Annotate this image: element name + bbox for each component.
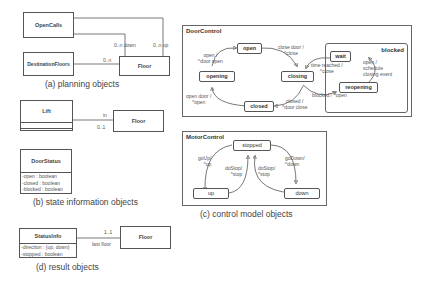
class-title: DoorStatus xyxy=(21,150,71,173)
state-down[interactable]: down xyxy=(284,188,320,199)
caption-control: (c) control model objects xyxy=(200,209,293,219)
state-stopped[interactable]: stopped xyxy=(233,140,271,151)
state-closed[interactable]: closed xyxy=(244,101,274,112)
transition-stopped-down: goDown/ ^down xyxy=(285,155,305,167)
frame-title: MotorControl xyxy=(186,134,224,140)
class-destination-floors[interactable]: DestinationFloors xyxy=(23,52,74,76)
multiplicity-dest: 0..n xyxy=(103,57,111,63)
class-floor-planning[interactable]: Floor xyxy=(119,56,170,76)
multiplicity-last-floor: 1..1 xyxy=(104,229,112,235)
class-open-calls[interactable]: OpenCalls xyxy=(23,12,74,38)
caption-state-info: (b) state information objects xyxy=(33,197,138,207)
transition-closing-reopening: blocked / ^open xyxy=(312,92,347,98)
transition-action: ^stop xyxy=(225,171,242,177)
state-up[interactable]: up xyxy=(193,188,229,199)
class-title: OpenCalls xyxy=(24,13,73,37)
role-in: in xyxy=(103,112,107,118)
class-title: Floor xyxy=(121,227,170,248)
transition-action: ^stop xyxy=(258,171,275,177)
transition-up-stopped: doStop/ ^stop xyxy=(225,165,242,177)
transition-action: ^close xyxy=(278,50,304,56)
class-lift[interactable]: Lift xyxy=(20,100,73,131)
multiplicity-down: 0..n down xyxy=(114,42,136,48)
transition-action: closing event xyxy=(363,71,392,77)
class-floor-result[interactable]: Floor xyxy=(120,226,171,249)
transition-reopening-wait: open / schedule closing event xyxy=(363,59,392,77)
attribute-blocked: -blocked : boolean xyxy=(21,186,71,193)
multiplicity-in: 0..1 xyxy=(97,124,105,130)
transition-action: ^open xyxy=(186,99,211,105)
caption-result: (d) result objects xyxy=(36,262,99,272)
state-open[interactable]: open xyxy=(237,43,262,54)
class-title: Floor xyxy=(120,57,169,75)
class-status-info[interactable]: StatusInfo -direction : {up, down} -stop… xyxy=(19,228,77,258)
transition-closing-closed: closed / ^door close xyxy=(282,98,307,110)
transition-down-stopped: doStop/ ^stop xyxy=(258,165,275,177)
attribute-direction: -direction : {up, down} xyxy=(20,244,76,251)
state-opening[interactable]: opening xyxy=(199,71,235,82)
frame-title: DoorControl xyxy=(186,28,221,34)
attribute-stopped: -stopped : boolean xyxy=(20,251,76,258)
transition-action: ^up xyxy=(198,161,211,167)
class-title: Lift xyxy=(21,101,72,123)
multiplicity-up: 0..n up xyxy=(153,42,168,48)
class-door-status[interactable]: DoorStatus -open : boolean -closed : boo… xyxy=(20,149,72,194)
caption-planning: (a) planning objects xyxy=(45,79,119,89)
transition-stopped-up: goUp/ ^up xyxy=(198,155,211,167)
role-last-floor: last floor xyxy=(92,241,111,247)
class-floor-state[interactable]: Floor xyxy=(113,110,164,132)
transition-action: ^door open xyxy=(198,58,223,64)
class-title: DestinationFloors xyxy=(24,53,73,75)
transition-action: ^close xyxy=(311,68,343,74)
state-closing[interactable]: closing xyxy=(281,71,314,82)
transition-opening-open: open / ^door open xyxy=(198,52,223,64)
transition-open-closing: close door / ^close xyxy=(278,44,304,56)
transition-closed-opening: open door / ^open xyxy=(186,93,211,105)
class-attr-compartment xyxy=(21,123,72,129)
transition-action: ^down xyxy=(285,161,305,167)
class-title: Floor xyxy=(114,111,163,131)
class-title: StatusInfo xyxy=(20,229,76,244)
transition-wait-closing: time reached / ^close xyxy=(311,62,343,74)
transition-action: ^door close xyxy=(282,104,307,110)
state-label-blocked: blocked xyxy=(381,47,404,53)
state-wait[interactable]: wait xyxy=(330,51,351,62)
